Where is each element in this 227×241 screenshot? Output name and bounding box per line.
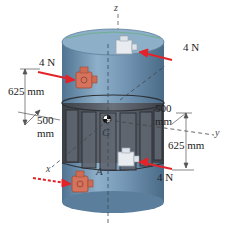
spacecraft-diagram: [0, 0, 227, 241]
equipment-band: [62, 95, 164, 171]
center-of-mass-marker: [103, 115, 111, 123]
force-label-bottom-right: 4 N: [157, 172, 173, 183]
force-label-top-right: 4 N: [183, 42, 199, 53]
z-axis-label: z: [114, 3, 118, 13]
dimension-right-vertical: 625 mm: [168, 140, 204, 151]
dimension-left-vertical: 625 mm: [8, 86, 44, 97]
y-axis-label: y: [215, 128, 219, 138]
dimension-left-radius-unit: mm: [37, 128, 54, 139]
dimension-right-radius-unit: mm: [155, 116, 172, 127]
point-a-label: A: [96, 166, 103, 177]
force-label-top-left: 4 N: [39, 57, 55, 68]
x-axis-label: x: [46, 164, 50, 174]
dimension-left-radius-value: 500: [37, 115, 54, 126]
center-of-mass-label: G: [102, 127, 110, 138]
dimension-right-radius-value: 500: [155, 103, 172, 114]
